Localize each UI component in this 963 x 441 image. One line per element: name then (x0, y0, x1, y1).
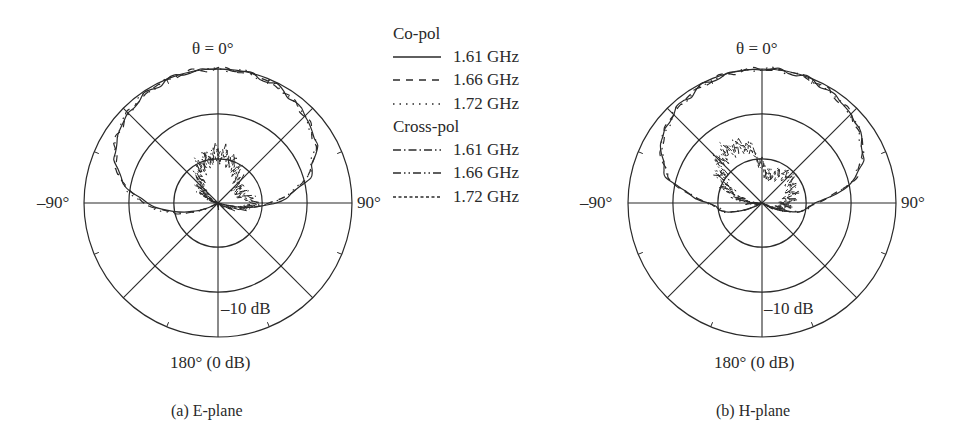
legend-entry-label: 1.61 GHz (453, 47, 519, 67)
e-plane-ring-label: –10 dB (221, 300, 271, 317)
legend-entry-label: 1.66 GHz (453, 70, 519, 90)
legend-entry-label: 1.72 GHz (453, 187, 519, 207)
legend-entry: 1.72 GHz (393, 185, 519, 208)
legend-entry: 1.72 GHz (393, 92, 519, 115)
h-plane-caption: (b) H-plane (716, 403, 790, 419)
h-plane-bottom-label: 180° (0 dB) (714, 354, 794, 371)
grid-tick (267, 322, 269, 327)
legend-line-dash-dot-dot-icon (393, 168, 441, 178)
grid-spoke (218, 203, 313, 298)
pattern-trace-cross-pol-1-66-ghz (193, 142, 263, 211)
grid-tick (881, 252, 886, 254)
grid-tick (94, 252, 99, 254)
h-plane-left-angle-label: –90° (580, 194, 612, 211)
grid-spoke (123, 203, 218, 298)
pattern-trace-cross-pol-1-72-ghz (195, 148, 258, 209)
legend-entry-label: 1.61 GHz (453, 140, 519, 160)
e-plane-right-angle-label: 90° (357, 194, 381, 211)
legend-line-dotted-icon (393, 99, 441, 109)
e-plane-left-angle-label: –90° (37, 194, 69, 211)
legend-group-title-co-pol: Co-pol (393, 22, 519, 45)
h-plane-polar-plot (628, 67, 896, 337)
grid-tick (638, 152, 643, 154)
h-plane-right-angle-label: 90° (901, 194, 925, 211)
pattern-trace-co-pol-1-66-ghz (114, 67, 317, 214)
pattern-trace-co-pol-1-61-ghz (114, 69, 318, 212)
legend-entry: 1.66 GHz (393, 162, 519, 185)
grid-tick (811, 322, 813, 327)
legend-group-title-cross-pol: Cross-pol (393, 115, 519, 138)
legend: Co-pol 1.61 GHz 1.66 GHz 1.72 GHz Cross-… (393, 22, 519, 208)
legend-line-solid-icon (393, 52, 441, 62)
pattern-trace-co-pol-1-72-ghz (115, 68, 317, 213)
grid-tick (94, 152, 99, 154)
legend-line-dash-dot-icon (393, 145, 441, 155)
grid-tick (881, 152, 886, 154)
e-plane-top-angle-label: θ = 0° (192, 40, 234, 57)
legend-line-short-dash-icon (393, 192, 441, 202)
grid-tick (167, 322, 169, 327)
h-plane-ring-label: –10 dB (764, 300, 814, 317)
legend-line-dashed-icon (393, 75, 441, 85)
legend-entry-label: 1.72 GHz (453, 94, 519, 114)
legend-entry: 1.61 GHz (393, 138, 519, 161)
legend-entry: 1.66 GHz (393, 69, 519, 92)
grid-spoke (667, 203, 762, 298)
legend-entry-label: 1.66 GHz (453, 163, 519, 183)
grid-tick (711, 322, 713, 327)
h-plane-top-angle-label: θ = 0° (736, 40, 778, 57)
e-plane-caption: (a) E-plane (171, 403, 243, 419)
grid-spoke (762, 203, 857, 298)
e-plane-polar-plot (84, 67, 352, 337)
e-plane-bottom-label: 180° (0 dB) (170, 354, 250, 371)
grid-tick (337, 152, 342, 154)
grid-tick (337, 252, 342, 254)
grid-tick (638, 252, 643, 254)
legend-entry: 1.61 GHz (393, 45, 519, 68)
pattern-trace-cross-pol-1-61-ghz (196, 149, 258, 210)
